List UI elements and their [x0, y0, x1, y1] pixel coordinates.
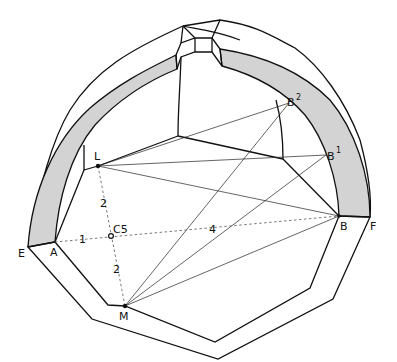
left-rib-band	[28, 55, 177, 247]
vault-construction-diagram: E A B F L M C5 B 1 B 2 2 2 1 4	[0, 0, 397, 362]
measure-L-C5: 2	[100, 197, 107, 210]
label-B2-superscript: 2	[296, 93, 301, 102]
label-A: A	[50, 246, 58, 259]
label-B: B	[340, 220, 348, 233]
measure-C5-M: 2	[113, 263, 120, 276]
label-M: M	[119, 310, 129, 323]
point-B	[337, 214, 341, 218]
label-B1-superscript: 1	[336, 146, 341, 155]
right-rib-band	[220, 49, 370, 217]
inner-floor-edge	[55, 216, 339, 342]
label-E: E	[18, 247, 25, 260]
label-F: F	[370, 220, 376, 233]
crown-keystone	[176, 20, 222, 69]
point-L	[96, 164, 100, 168]
label-B1: B	[327, 150, 335, 163]
measure-C5-B: 4	[209, 223, 216, 236]
label-B2: B	[287, 96, 295, 109]
label-C5: C5	[113, 223, 128, 236]
point-M	[123, 304, 127, 308]
label-L: L	[94, 150, 101, 163]
measure-A-C5: 1	[79, 233, 86, 246]
measurement-lines	[55, 166, 339, 306]
construction-rays	[98, 103, 339, 306]
